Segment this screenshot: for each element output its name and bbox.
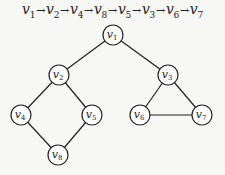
node-v1: v1 — [103, 25, 123, 45]
node-v3: v3 — [158, 65, 178, 85]
node-v6: v6 — [130, 105, 150, 125]
node-v2: v2 — [49, 65, 69, 85]
node-v5: v5 — [82, 105, 102, 125]
node-v4: v4 — [11, 105, 31, 125]
graph-diagram: v1v2v3v4v5v6v7v8 — [0, 0, 225, 175]
node-v8: v8 — [48, 145, 68, 165]
node-v7: v7 — [192, 105, 212, 125]
